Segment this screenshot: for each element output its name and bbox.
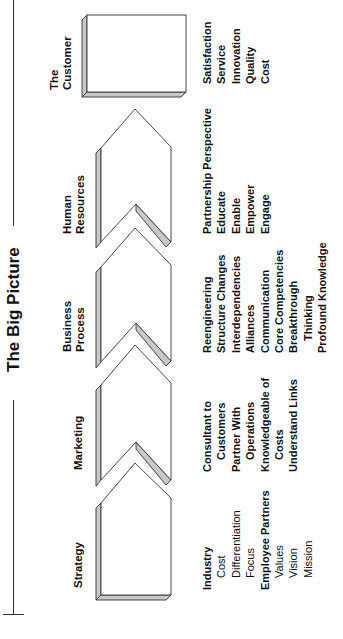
stage-label-the-customer: The Customer: [48, 36, 74, 90]
customer-box-shape: [82, 15, 186, 97]
human-resources-items: Partnership Perspective Educate Enable E…: [200, 108, 272, 234]
list-item: Core Competencies: [272, 242, 286, 353]
list-item: Understand Links: [286, 378, 300, 472]
list-item: Profound Knowledge: [315, 242, 329, 353]
stage-label-line: Strategy: [72, 542, 85, 588]
page-title: The Big Picture: [4, 247, 24, 372]
the-customer-items: Satisfaction Service Innovation Quality …: [200, 22, 272, 84]
human-resources-chevron-shape: [96, 109, 171, 248]
stage-label-strategy: Strategy: [72, 542, 85, 588]
list-item: Satisfaction: [200, 22, 214, 84]
list-item: Partnership Perspective: [200, 108, 214, 234]
list-item: Service: [214, 22, 228, 84]
stage-label-marketing: Marketing: [72, 416, 85, 470]
list-item: Partner With: [229, 378, 243, 472]
list-item: Thinking: [301, 242, 315, 353]
list-item: Mission: [301, 490, 315, 590]
list-item: Educate: [214, 108, 228, 234]
list-item: Differentiation: [229, 490, 243, 590]
business-process-items: Reengineering Structure Changes Interdep…: [200, 242, 330, 353]
list-item: Vision: [286, 490, 300, 590]
marketing-items: Consultant to Customers Partner With Ope…: [200, 378, 301, 472]
list-item: Customers: [214, 378, 228, 472]
list-item: Costs: [272, 378, 286, 472]
list-item: Reengineering: [200, 242, 214, 353]
stage-label-line: Customer: [61, 36, 74, 90]
strategy-items: Industry Cost Differentiation Focus Empl…: [200, 490, 315, 590]
stage-label-line: Human: [61, 175, 74, 234]
list-item: Innovation: [229, 22, 243, 84]
strategy-chevron-shape: [96, 463, 171, 600]
list-item: Knowledgeable of: [258, 378, 272, 472]
list-item: Communication: [258, 242, 272, 353]
list-item: Cost: [214, 490, 228, 590]
stage-label-human-resources: Human Resources: [61, 175, 87, 234]
stage-label-line: The: [48, 36, 61, 90]
list-item: Operations: [243, 378, 257, 472]
stage-label-line: Process: [74, 301, 87, 352]
list-item: Structure Changes: [214, 242, 228, 353]
list-item: Engage: [258, 108, 272, 234]
list-item: Cost: [258, 22, 272, 84]
list-item: Enable: [229, 108, 243, 234]
list-item: Employee Partners: [258, 490, 272, 590]
list-item: Alliances: [243, 242, 257, 353]
list-item: Breakthrough: [286, 242, 300, 353]
list-item: Interdependencies: [229, 242, 243, 353]
stage-label-line: Marketing: [72, 416, 85, 470]
stage-label-line: Business: [61, 301, 74, 352]
list-item: Consultant to: [200, 378, 214, 472]
list-item: Quality: [243, 22, 257, 84]
list-item: Focus: [243, 490, 257, 590]
list-item: Values: [272, 490, 286, 590]
stage-label-business-process: Business Process: [61, 301, 87, 352]
list-item: Industry: [200, 490, 214, 590]
stage-label-line: Resources: [74, 175, 87, 234]
list-item: Empower: [243, 108, 257, 234]
